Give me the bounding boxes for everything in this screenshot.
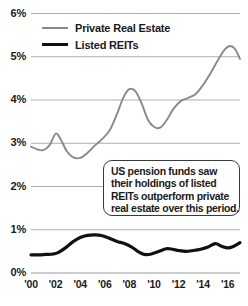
x-axis-label-08: '08 <box>117 278 141 290</box>
y-axis-label-2%: 2% <box>0 180 26 192</box>
x-axis-label-14: '14 <box>191 278 215 290</box>
y-axis-label-6%: 6% <box>0 7 26 19</box>
series-line-listed-reits <box>31 235 240 255</box>
x-axis-label-06: '06 <box>93 278 117 290</box>
x-axis-label-16: '16 <box>216 278 240 290</box>
legend-item-listed-reits: Listed REITs <box>42 36 170 53</box>
y-axis-label-1%: 1% <box>0 223 26 235</box>
annotation-line-3: REITs outperform private <box>111 190 234 202</box>
legend-item-private-real-estate: Private Real Estate <box>42 19 170 36</box>
legend-swatch-private-real-estate <box>42 27 68 29</box>
y-axis-label-5%: 5% <box>0 50 26 62</box>
annotation-callout: US pension funds saw their holdings of l… <box>103 160 240 216</box>
x-axis-label-10: '10 <box>142 278 166 290</box>
y-axis-label-0%: 0% <box>0 266 26 278</box>
chart-legend: Private Real Estate Listed REITs <box>42 19 170 53</box>
legend-swatch-listed-reits <box>42 43 68 46</box>
legend-label-listed-reits: Listed REITs <box>75 39 138 51</box>
x-axis-label-00: '00 <box>19 278 43 290</box>
x-axis-label-04: '04 <box>68 278 92 290</box>
x-axis-label-12: '12 <box>167 278 191 290</box>
annotation-line-4: real estate over this period. <box>111 202 234 214</box>
legend-label-private-real-estate: Private Real Estate <box>75 22 170 34</box>
series-lines <box>31 46 240 255</box>
annotation-line-1: US pension funds saw <box>111 165 234 177</box>
y-axis-label-3%: 3% <box>0 136 26 148</box>
chart-container: 0%1%2%3%4%5%6% '00'02'04'06'08'10'12'14'… <box>0 0 248 306</box>
y-axis-label-4%: 4% <box>0 93 26 105</box>
annotation-line-2: their holdings of listed <box>111 177 234 189</box>
series-line-private-real-estate <box>31 46 240 158</box>
x-axis-label-02: '02 <box>44 278 68 290</box>
